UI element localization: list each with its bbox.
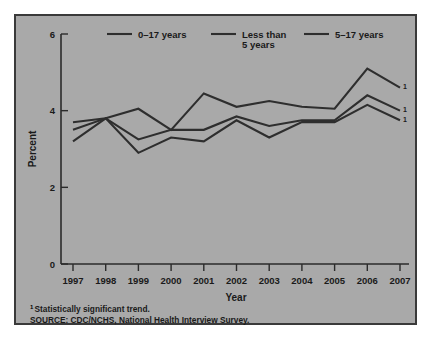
chart-figure-panel: 0–17 years Less than 5 years 5–17 years bbox=[14, 14, 417, 325]
series-endpoint-markers: 1 1 1 bbox=[403, 83, 407, 123]
x-tick-label-2001: 2001 bbox=[193, 275, 215, 286]
endpoint-marker-5-17-years: 1 bbox=[403, 116, 407, 123]
x-tick-label-2002: 2002 bbox=[226, 275, 247, 286]
footnote-source: SOURCE: CDC/NCHS, National Health Interv… bbox=[30, 315, 249, 325]
x-tick-label-1997: 1997 bbox=[62, 275, 83, 286]
chart-footnotes: 1 Statistically significant trend. SOURC… bbox=[30, 304, 249, 325]
y-tick-label-2: 2 bbox=[50, 182, 55, 193]
x-tick-label-2006: 2006 bbox=[357, 275, 378, 286]
y-tick-label-4: 4 bbox=[50, 105, 56, 116]
legend-label-less-than-5-years-line1: Less than bbox=[242, 29, 287, 40]
screenshot-root: 0–17 years Less than 5 years 5–17 years bbox=[0, 0, 431, 340]
chart-axes bbox=[61, 34, 409, 264]
endpoint-marker-0-17-years: 1 bbox=[403, 106, 407, 113]
y-axis-tick-labels: 6 4 2 0 bbox=[50, 29, 56, 270]
x-tick-label-2004: 2004 bbox=[291, 275, 313, 286]
x-tick-label-1999: 1999 bbox=[128, 275, 149, 286]
footnote-marker: 1 bbox=[30, 304, 34, 310]
x-tick-label-1998: 1998 bbox=[95, 275, 116, 286]
y-axis-ticks bbox=[61, 34, 68, 264]
chart-legend: 0–17 years Less than 5 years 5–17 years bbox=[107, 29, 384, 51]
x-tick-label-2007: 2007 bbox=[389, 275, 410, 286]
x-tick-label-2000: 2000 bbox=[161, 275, 182, 286]
x-axis-ticks bbox=[73, 264, 400, 271]
x-axis-title: Year bbox=[225, 292, 246, 303]
y-tick-label-0: 0 bbox=[50, 259, 55, 270]
footnote-significant-trend: Statistically significant trend. bbox=[35, 304, 150, 314]
y-axis-title: Percent bbox=[27, 130, 38, 167]
chart-series-group bbox=[73, 69, 400, 153]
x-tick-label-2003: 2003 bbox=[259, 275, 280, 286]
series-line-0-17-years bbox=[73, 95, 400, 139]
legend-label-0-17-years: 0–17 years bbox=[138, 29, 187, 40]
y-tick-label-6: 6 bbox=[50, 29, 55, 40]
x-axis-tick-labels: 1997 1998 1999 2000 2001 2002 2003 2004 … bbox=[62, 275, 410, 286]
endpoint-marker-less-than-5-years: 1 bbox=[403, 83, 407, 90]
line-chart: 0–17 years Less than 5 years 5–17 years bbox=[16, 16, 419, 327]
legend-label-less-than-5-years-line2: 5 years bbox=[242, 39, 275, 50]
x-tick-label-2005: 2005 bbox=[324, 275, 346, 286]
legend-label-5-17-years: 5–17 years bbox=[335, 29, 384, 40]
